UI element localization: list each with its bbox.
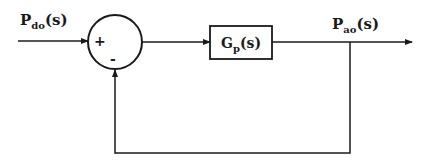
plant-block: Gp(s): [210, 26, 272, 59]
minus-sign: -: [110, 51, 116, 67]
summing-junction: + -: [88, 15, 142, 69]
input-label: Pdo(s): [20, 11, 68, 31]
output-label: Pao(s): [332, 15, 379, 35]
plus-sign: +: [94, 33, 106, 49]
block-diagram: Pdo(s) + - Gp(s) Pao(s): [0, 0, 435, 160]
